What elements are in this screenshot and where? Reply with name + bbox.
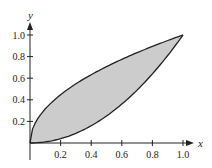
chart: x y 0.20.40.60.81.0 0.20.40.60.81.0 <box>0 0 212 168</box>
x-axis-arrow-icon <box>186 140 194 146</box>
x-tick-label: 0.4 <box>85 149 98 160</box>
x-tick-label: 0.2 <box>54 149 67 160</box>
x-axis-label: x <box>197 137 203 149</box>
y-tick-label: 1.0 <box>13 30 26 41</box>
y-tick-label: 0.8 <box>13 51 26 62</box>
shaded-region <box>30 35 183 143</box>
x-tick-label: 1.0 <box>177 149 190 160</box>
y-tick-label: 0.6 <box>13 73 26 84</box>
y-axis-arrow-icon <box>27 22 33 30</box>
x-tick-label: 0.6 <box>116 149 129 160</box>
y-tick-label: 0.4 <box>13 94 26 105</box>
y-tick-label: 0.2 <box>13 116 26 127</box>
x-tick-label: 0.8 <box>146 149 159 160</box>
y-axis-label: y <box>27 9 33 21</box>
